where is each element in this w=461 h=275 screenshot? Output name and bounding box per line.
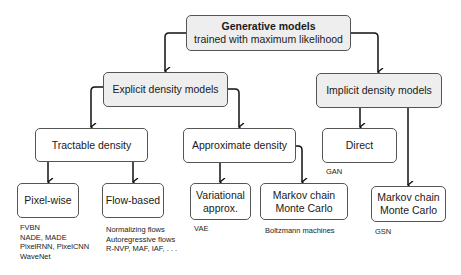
node-mcmc-explicit: Markov chain Monte Carlo xyxy=(260,183,348,220)
node-explicit-density: Explicit density models xyxy=(103,72,228,107)
node-label-line2: Monte Carlo xyxy=(380,204,437,217)
node-direct: Direct xyxy=(322,128,397,163)
example-item: WaveNet xyxy=(20,252,89,262)
edge-root-explicit xyxy=(165,33,186,71)
example-item: Boltzmann machines xyxy=(265,226,335,236)
examples-mcmc-implicit: GSN xyxy=(375,227,391,237)
node-label-line1: Markov chain xyxy=(377,191,439,204)
node-tractable-density: Tractable density xyxy=(35,128,148,162)
node-label: Approximate density xyxy=(192,139,287,152)
edge-root-implicit xyxy=(351,33,378,72)
node-label-line1: Markov chain xyxy=(273,189,335,202)
examples-mcmc-explicit: Boltzmann machines xyxy=(265,226,335,236)
edge-approximate-mcmc xyxy=(296,146,302,182)
example-item: R-NVP, MAF, IAF, . . . xyxy=(106,244,177,254)
node-label: Flow-based xyxy=(106,194,160,207)
example-item: VAE xyxy=(194,224,208,234)
node-label-line1: Variational xyxy=(196,189,245,202)
node-label: Pixel-wise xyxy=(24,194,71,207)
example-item: Autoregressive flows xyxy=(106,235,177,245)
example-item: GAN xyxy=(326,167,342,177)
node-variational-approx: Variational approx. xyxy=(190,183,251,220)
edge-explicit-tractable xyxy=(91,87,103,127)
example-item: FVBN xyxy=(20,223,89,233)
example-item: PixelRNN, PixelCNN xyxy=(20,242,89,252)
node-pixel-wise: Pixel-wise xyxy=(17,183,79,218)
node-generative-models: Generative models trained with maximum l… xyxy=(186,15,351,51)
node-label: Tractable density xyxy=(52,139,132,152)
node-label: Explicit density models xyxy=(112,83,218,96)
examples-variational: VAE xyxy=(194,224,208,234)
examples-direct: GAN xyxy=(326,167,342,177)
node-subtitle: trained with maximum likelihood xyxy=(194,33,343,46)
examples-pixel-wise: FVBN NADE, MADE PixelRNN, PixelCNN WaveN… xyxy=(20,223,89,261)
examples-flow-based: Normalizing flows Autoregressive flows R… xyxy=(106,225,177,254)
node-approximate-density: Approximate density xyxy=(183,128,296,163)
node-label-line2: approx. xyxy=(203,202,238,215)
node-implicit-density: Implicit density models xyxy=(316,73,442,108)
example-item: NADE, MADE xyxy=(20,233,89,243)
node-mcmc-implicit: Markov chain Monte Carlo xyxy=(371,186,446,222)
edge-explicit-approximate xyxy=(228,89,239,127)
node-label: Direct xyxy=(346,139,373,152)
node-flow-based: Flow-based xyxy=(102,183,164,218)
example-item: GSN xyxy=(375,227,391,237)
node-label: Implicit density models xyxy=(326,84,432,97)
example-item: Normalizing flows xyxy=(106,225,177,235)
node-label-line2: Monte Carlo xyxy=(275,202,332,215)
node-title: Generative models xyxy=(222,20,316,33)
